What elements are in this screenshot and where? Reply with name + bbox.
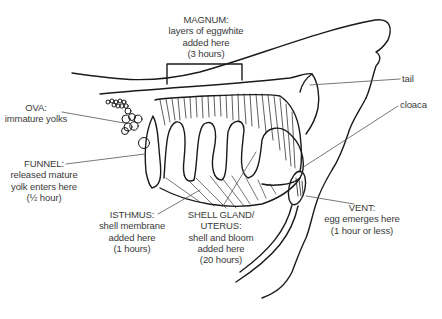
label-funnel: FUNNEL: released mature yolk enters here… bbox=[4, 158, 84, 203]
lower-hatching bbox=[166, 176, 276, 208]
magnum-bracket bbox=[167, 64, 242, 84]
label-cloaca: cloaca bbox=[400, 99, 427, 110]
funnel-shape bbox=[145, 116, 160, 188]
tail-fold bbox=[300, 74, 312, 92]
oviduct-bottom bbox=[160, 178, 300, 206]
label-magnum: MAGNUM: layers of eggwhite added here (3… bbox=[166, 14, 246, 59]
label-vent: VENT: egg emerges here (1 hour or less) bbox=[322, 202, 402, 236]
label-ova: OVA: immature yolks bbox=[0, 102, 72, 125]
ova-cluster bbox=[106, 99, 150, 149]
leader-shell-gland bbox=[223, 152, 256, 206]
mesentery-hatching bbox=[160, 94, 295, 168]
label-isthmus: ISTHMUS: shell membrane added here (1 ho… bbox=[92, 209, 172, 254]
label-magnum-title: MAGNUM: bbox=[166, 14, 246, 25]
oviduct-coils bbox=[164, 121, 303, 185]
label-tail: tail bbox=[402, 73, 414, 84]
label-shell-gland: SHELL GLAND/ UTERUS: shell and bloom add… bbox=[181, 209, 261, 265]
leader-tail bbox=[310, 79, 400, 85]
